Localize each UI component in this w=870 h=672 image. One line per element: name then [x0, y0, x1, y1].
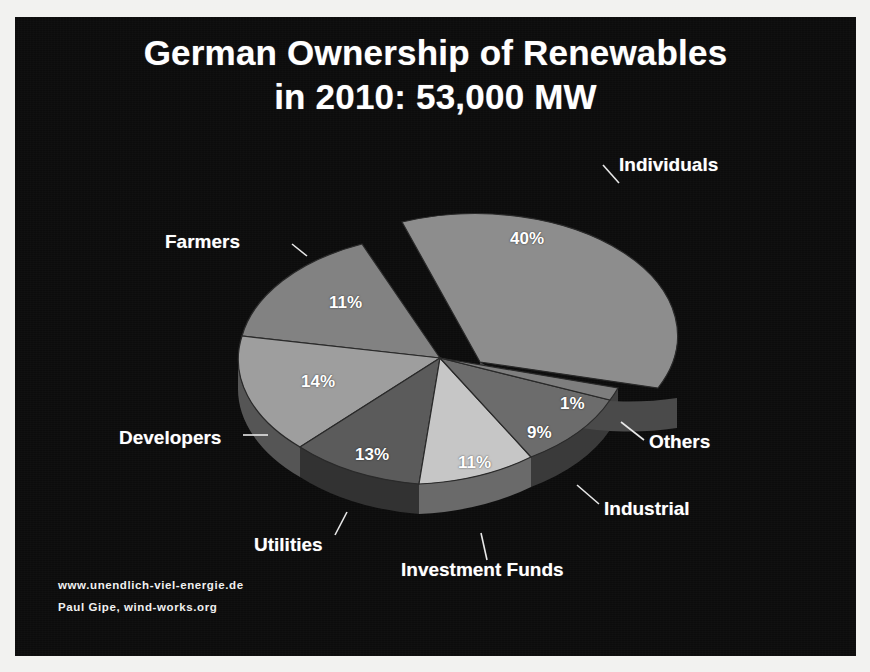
pie-value-farmers: 11%	[329, 293, 362, 313]
pie-label-industrial: Industrial	[604, 498, 690, 520]
credit-author: Paul Gipe, wind-works.org	[58, 596, 244, 618]
title-line-2: in 2010: 53,000 MW	[15, 75, 856, 119]
leader-investment-funds	[481, 533, 487, 560]
pie-label-investment-funds: Investment Funds	[401, 559, 564, 581]
slide-page: German Ownership of Renewables in 2010: …	[0, 0, 870, 672]
leader-individuals	[603, 165, 619, 183]
pie-label-farmers: Farmers	[165, 231, 240, 253]
pie-label-utilities: Utilities	[254, 534, 323, 556]
title-line-1: German Ownership of Renewables	[15, 31, 856, 75]
pie-value-investment-funds: 11%	[458, 453, 491, 473]
leader-industrial	[577, 485, 599, 504]
pie-value-individuals: 40%	[510, 229, 544, 249]
pie-value-others: 1%	[560, 394, 585, 414]
page-title: German Ownership of Renewables in 2010: …	[15, 31, 856, 119]
leader-utilities	[335, 512, 347, 535]
pie-value-developers: 14%	[301, 372, 335, 392]
slide-canvas: German Ownership of Renewables in 2010: …	[15, 17, 856, 656]
credit-website: www.unendlich-viel-energie.de	[58, 574, 244, 596]
pie-label-individuals: Individuals	[619, 154, 718, 176]
pie-value-utilities: 13%	[355, 445, 389, 465]
pie-label-others: Others	[649, 431, 710, 453]
leader-farmers	[292, 244, 307, 256]
pie-label-developers: Developers	[119, 427, 221, 449]
source-credits: www.unendlich-viel-energie.de Paul Gipe,…	[58, 574, 244, 618]
pie-value-industrial: 9%	[527, 423, 552, 443]
